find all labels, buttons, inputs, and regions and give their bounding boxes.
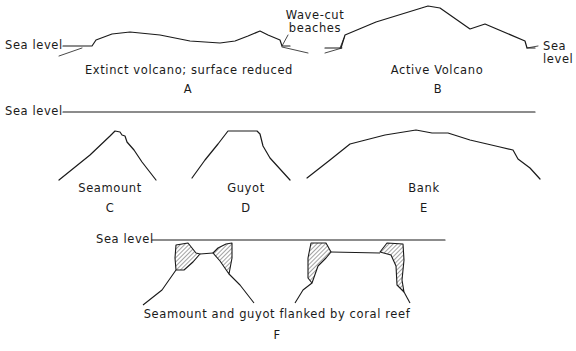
sea-level-label-a: Sea level: [5, 40, 63, 52]
caption-guyot: Guyot: [227, 183, 265, 195]
caption-bank: Bank: [408, 183, 439, 195]
wave-cut-label-line2: beaches: [286, 22, 345, 35]
seamount-with-coral-reef: [143, 243, 254, 305]
caption-coral-reef: Seamount and guyot flanked by coral reef: [144, 309, 411, 321]
guyot-with-coral-reef: [295, 243, 410, 303]
panel-letter-f: F: [273, 330, 280, 342]
sea-level-label-b: Sea level: [543, 40, 573, 66]
guyot-profile: [192, 131, 290, 180]
extinct-volcano-profile: [59, 31, 308, 56]
sea-level-label-cde: Sea level: [5, 106, 63, 118]
active-volcano-profile: [325, 6, 538, 53]
seamount-profile: [59, 131, 156, 180]
coral-reef-right-guyot: [380, 243, 404, 292]
bank-profile: [307, 130, 540, 179]
coral-reef-right: [213, 243, 232, 274]
panel-letter-c: C: [106, 203, 115, 215]
caption-active-volcano: Active Volcano: [391, 65, 484, 77]
panel-letter-d: D: [241, 203, 250, 215]
panel-letter-a: A: [184, 84, 192, 96]
panel-letter-b: B: [434, 84, 443, 96]
wave-cut-beaches-label: Wave-cut beaches: [286, 9, 345, 35]
panel-letter-e: E: [420, 203, 428, 215]
caption-seamount: Seamount: [78, 183, 142, 195]
coral-reef-left: [175, 243, 200, 270]
coral-reef-left-guyot: [308, 243, 331, 283]
level-label-line2: level: [543, 53, 573, 66]
sea-level-label-f: Sea level: [96, 234, 154, 246]
landform-diagram: [0, 0, 576, 351]
caption-extinct-volcano: Extinct volcano; surface reduced: [85, 65, 293, 77]
